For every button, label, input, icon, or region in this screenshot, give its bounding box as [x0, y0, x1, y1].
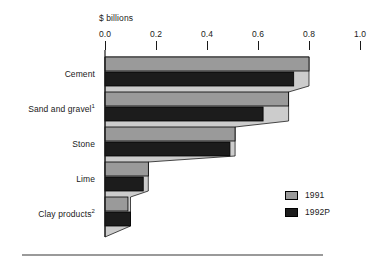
legend-swatch-1991-icon: [285, 191, 298, 200]
bar-lime-1991: [105, 162, 148, 176]
legend-entry-1991: 1991: [285, 190, 324, 200]
xtick-label-4: 0.8: [303, 29, 315, 39]
footnote-marker-1: 1: [92, 103, 95, 109]
bar-cement-1991: [105, 57, 309, 71]
xtick-label-3: 0.6: [252, 29, 264, 39]
bar-stone-1992p: [105, 142, 230, 156]
bar-cement-1992p: [105, 72, 294, 86]
category-label-text: Stone: [72, 139, 95, 149]
bar-clay-products-1992p: [105, 212, 131, 226]
xtick-mark-1: [156, 41, 157, 50]
bar-chart-figure: $ billions 0.0 0.2 0.4 0.6 0.8 1.0 Cemen…: [0, 0, 384, 266]
xtick-label-1: 0.2: [150, 29, 162, 39]
bar-lime-1992p: [105, 177, 143, 191]
xtick-label-2: 0.4: [201, 29, 213, 39]
legend-entry-1992p: 1992P: [285, 207, 330, 217]
xtick-mark-2: [207, 41, 208, 50]
xtick-mark-4: [309, 41, 310, 50]
legend-label-1991: 1991: [305, 190, 324, 200]
category-label-cement: Cement: [0, 69, 95, 79]
category-label-text: Lime: [76, 174, 95, 184]
bar-clay-products-1991: [105, 197, 128, 211]
xtick-label-5: 1.0: [354, 29, 366, 39]
legend-swatch-1992p-icon: [285, 208, 298, 217]
xtick-mark-3: [258, 41, 259, 50]
category-label-stone: Stone: [0, 139, 95, 149]
plot-area: [0, 0, 384, 266]
legend-label-1992p: 1992P: [305, 207, 330, 217]
category-label-text: Sand and gravel: [28, 104, 91, 114]
category-label-lime: Lime: [0, 174, 95, 184]
bar-sand-and-gravel-1991: [105, 92, 289, 106]
xtick-mark-0: [105, 41, 106, 50]
category-label-text: Clay products: [38, 209, 91, 219]
category-label-sand-and-gravel: Sand and gravel1: [0, 104, 95, 114]
footnote-marker-2: 2: [92, 208, 95, 214]
xtick-mark-5: [360, 41, 361, 50]
bottom-divider-rule: [22, 254, 323, 256]
category-label-text: Cement: [65, 69, 95, 79]
xtick-label-0: 0.0: [99, 29, 111, 39]
category-label-clay-products: Clay products2: [0, 209, 95, 219]
bar-sand-and-gravel-1992p: [105, 107, 263, 121]
bar-stone-1991: [105, 127, 235, 141]
